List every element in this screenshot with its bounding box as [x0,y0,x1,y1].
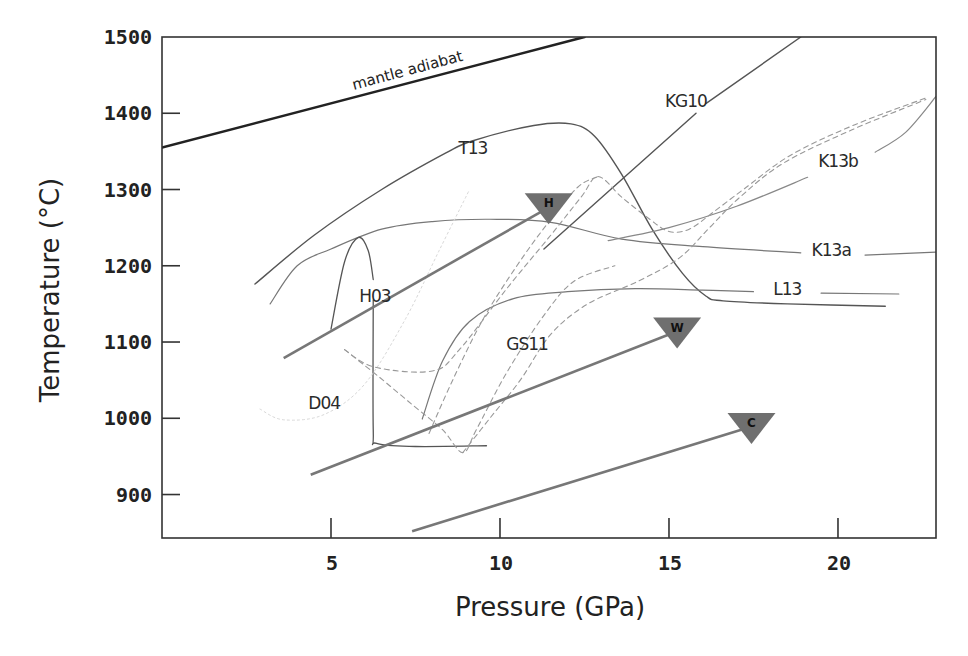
x-tick-label: 20 [827,551,851,575]
y-tick-label: 1400 [104,101,152,125]
x-tick-label: 15 [658,551,682,575]
arrow-label: C [747,416,756,430]
label-d04: D04 [308,393,340,413]
curve-h03 [331,237,373,329]
arrow-label: W [671,321,684,335]
curve-l13 [821,293,899,294]
label-mantle-adiabat: mantle adiabat [350,47,465,94]
y-tick-label: 1300 [104,178,152,202]
y-tick-label: 1500 [104,25,152,49]
curve-k13b [608,177,807,240]
x-axis-title: Pressure (GPa) [455,592,645,622]
plot-frame [162,37,936,538]
curve-k13a [865,252,936,255]
curve-kg10 [544,113,696,249]
y-tick-label: 1100 [104,330,152,354]
label-t13: T13 [457,138,487,158]
pt-diagram-chart: HWC mantle adiabatT13KG10K13aK13bL13H03D… [0,0,968,656]
arrow-shaft [311,331,679,475]
arrow-shaft [412,426,753,531]
y-tick-label: 1200 [104,254,152,278]
arrow-label: H [544,196,554,210]
curve-mantle-adiabat [162,37,584,148]
label-kg10: KG10 [665,91,707,111]
curve-kg10 [706,37,801,103]
x-tick-label: 5 [326,551,338,575]
label-h03: H03 [359,286,391,306]
y-axis-title: Temperature (°C) [35,178,65,403]
curve-l13 [422,289,753,419]
y-tick-label: 900 [116,483,152,507]
arrow-c: C [412,413,775,531]
x-tick-label: 10 [489,551,513,575]
label-l13: L13 [773,279,801,299]
label-gs11: GS11 [506,334,548,354]
label-k13a: K13a [812,240,851,260]
label-k13b: K13b [818,151,858,171]
y-tick-label: 1000 [104,406,152,430]
axes: 9001000110012001300140015005101520 [104,25,936,575]
arrows-layer: HWC [284,193,776,531]
